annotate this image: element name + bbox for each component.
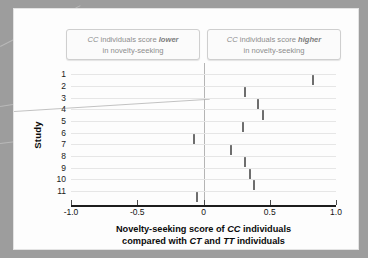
x-title-gene-cc: CC	[227, 224, 240, 234]
x-title-part-1: Novelty-seeking score of	[116, 224, 227, 234]
y-axis-tick-label: 7	[61, 139, 66, 149]
gridline	[71, 121, 336, 122]
x-axis-tick	[137, 200, 138, 205]
annotation-lower-line1: CC individuals score lower	[87, 35, 178, 44]
annotation-higher: CC individuals score higher in novelty-s…	[207, 29, 341, 60]
x-axis-title: Novelty-seeking score of CC individuals …	[71, 223, 336, 248]
gridline	[71, 179, 336, 180]
y-axis-tick-label: 3	[61, 93, 66, 103]
x-axis-tick	[270, 200, 271, 205]
x-axis-tick-label: -1.0	[64, 207, 79, 217]
y-axis-tick-label: 4	[61, 104, 66, 114]
plot-area: 1234567891011	[71, 67, 336, 202]
y-axis-tick-label: 2	[61, 81, 66, 91]
x-axis-tick-label: 0	[201, 207, 206, 217]
gene-label-cc-right: CC	[227, 35, 238, 44]
data-point-marker	[253, 180, 255, 190]
data-point-marker	[312, 75, 314, 85]
data-point-marker	[244, 87, 246, 97]
y-axis-title: Study	[32, 121, 43, 148]
x-axis-tick-label: 0.5	[264, 207, 276, 217]
y-axis-tick-label: 10	[57, 174, 66, 184]
x-title-part-5: individuals	[234, 236, 285, 246]
gridline	[71, 191, 336, 192]
x-axis-tick	[204, 200, 205, 205]
annotation-lower-emphasis: lower	[159, 35, 179, 44]
gridline	[71, 133, 336, 134]
y-axis-tick-label: 8	[61, 151, 66, 161]
data-point-marker	[244, 157, 246, 167]
chart-panel: CC individuals score lower in novelty-se…	[14, 9, 358, 249]
y-axis-tick-label: 11	[57, 186, 66, 196]
data-point-marker	[257, 99, 259, 109]
data-point-marker	[193, 134, 195, 144]
data-point-marker	[242, 122, 244, 132]
figure-container: CC individuals score lower in novelty-se…	[0, 0, 368, 258]
gridline	[71, 86, 336, 87]
y-axis-tick-label: 6	[61, 128, 66, 138]
x-title-gene-ct: CT	[189, 236, 201, 246]
gridline	[71, 98, 336, 99]
data-point-marker	[249, 169, 251, 179]
data-point-marker	[196, 192, 198, 202]
annotation-lower-text: individuals score	[98, 35, 158, 44]
annotation-higher-emphasis: higher	[298, 35, 321, 44]
y-axis-tick-label: 9	[61, 163, 66, 173]
annotation-higher-line2: in novelty-seeking	[244, 46, 305, 55]
x-title-part-4: and	[202, 236, 223, 246]
x-axis-tick	[336, 200, 337, 205]
y-axis-tick-label: 1	[61, 69, 66, 79]
x-axis-tick-label: -0.5	[130, 207, 145, 217]
gridline	[71, 156, 336, 157]
gene-label-cc-left: CC	[87, 35, 98, 44]
gridline	[71, 109, 336, 110]
gridline	[71, 74, 336, 75]
x-axis-tick	[71, 200, 72, 205]
y-axis-tick-label: 5	[61, 116, 66, 126]
data-point-marker	[262, 110, 264, 120]
x-title-part-3: compared with	[122, 236, 189, 246]
data-point-marker	[230, 145, 232, 155]
annotation-higher-text: individuals score	[238, 35, 298, 44]
annotation-lower: CC individuals score lower in novelty-se…	[66, 29, 200, 60]
annotation-lower-line2: in novelty-seeking	[103, 46, 164, 55]
x-title-gene-tt: TT	[223, 236, 234, 246]
annotation-higher-line1: CC individuals score higher	[227, 35, 322, 44]
x-axis-tick-label: 1.0	[330, 207, 342, 217]
gridline	[71, 168, 336, 169]
gridline	[71, 144, 336, 145]
x-title-part-2: individuals	[241, 224, 292, 234]
